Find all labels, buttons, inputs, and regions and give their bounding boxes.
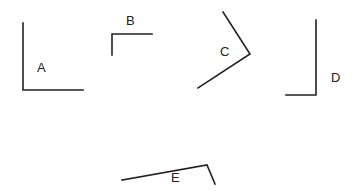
angle-b: B — [112, 13, 152, 55]
angle-c-label: C — [220, 44, 229, 59]
angle-d: D — [286, 20, 340, 95]
angle-a-label: A — [37, 60, 46, 75]
angle-b-label: B — [126, 13, 135, 28]
angle-e-rays — [122, 165, 215, 184]
angle-a-rays — [23, 23, 83, 90]
angle-e: E — [122, 165, 215, 185]
angle-b-rays — [112, 34, 152, 55]
angle-a: A — [23, 23, 83, 90]
angle-c: C — [198, 12, 250, 88]
angles-diagram: A B C D E — [0, 0, 361, 192]
angle-d-label: D — [331, 70, 340, 85]
angle-e-label: E — [171, 170, 180, 185]
angle-d-rays — [286, 20, 316, 95]
